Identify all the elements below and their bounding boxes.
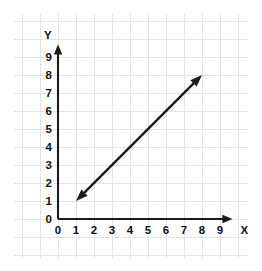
y-tick-label-1: 1 <box>46 195 53 207</box>
x-tick-label-0: 0 <box>55 224 61 236</box>
x-tick-label-2: 2 <box>91 224 97 236</box>
y-tick-label-0: 0 <box>46 213 52 225</box>
y-tick-label-6: 6 <box>46 105 52 117</box>
y-tick-label-3: 3 <box>46 159 52 171</box>
y-axis-title: Y <box>44 29 52 41</box>
x-tick-label-7: 7 <box>181 224 187 236</box>
x-tick-label-3: 3 <box>109 224 115 236</box>
x-axis-title: X <box>240 224 248 236</box>
x-tick-label-1: 1 <box>73 224 80 236</box>
coordinate-plane-figure: 0123456789 0123456789 X Y <box>0 0 262 271</box>
x-tick-label-4: 4 <box>127 224 134 236</box>
y-tick-label-8: 8 <box>46 69 53 81</box>
graph-canvas: 0123456789 0123456789 X Y <box>0 0 262 271</box>
x-tick-label-6: 6 <box>163 224 169 236</box>
x-tick-label-5: 5 <box>145 224 152 236</box>
x-tick-label-8: 8 <box>199 224 206 236</box>
y-tick-label-2: 2 <box>46 177 52 189</box>
y-tick-label-4: 4 <box>46 141 53 153</box>
y-tick-label-5: 5 <box>46 123 53 135</box>
x-tick-label-9: 9 <box>217 224 223 236</box>
y-tick-label-7: 7 <box>46 87 52 99</box>
y-tick-label-9: 9 <box>46 51 52 63</box>
